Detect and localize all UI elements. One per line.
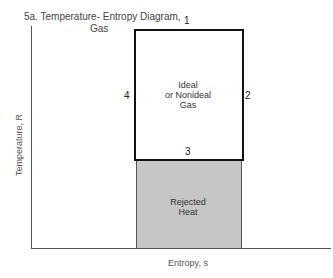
rejected-heat-line2: Heat bbox=[150, 207, 226, 217]
cycle-label: Ideal or Nonideal Gas bbox=[150, 80, 226, 110]
rejected-heat-label: Rejected Heat bbox=[150, 197, 226, 217]
point-label-3: 3 bbox=[185, 146, 191, 157]
cycle-label-line1: Ideal bbox=[150, 80, 226, 90]
diagram-title: 5a. Temperature- Entropy Diagram, bbox=[24, 11, 181, 23]
y-axis-label: Temperature, R bbox=[14, 114, 24, 176]
point-label-1: 1 bbox=[184, 15, 190, 26]
point-label-4: 4 bbox=[124, 90, 130, 101]
diagram-title-subtitle: Gas bbox=[90, 23, 108, 35]
cycle-label-line2: or Nonideal bbox=[150, 90, 226, 100]
x-axis bbox=[31, 248, 331, 249]
y-axis bbox=[31, 26, 32, 249]
x-axis-label: Entropy, s bbox=[168, 258, 208, 268]
rejected-heat-line1: Rejected bbox=[150, 197, 226, 207]
cycle-label-line3: Gas bbox=[150, 100, 226, 110]
point-label-2: 2 bbox=[245, 90, 251, 101]
